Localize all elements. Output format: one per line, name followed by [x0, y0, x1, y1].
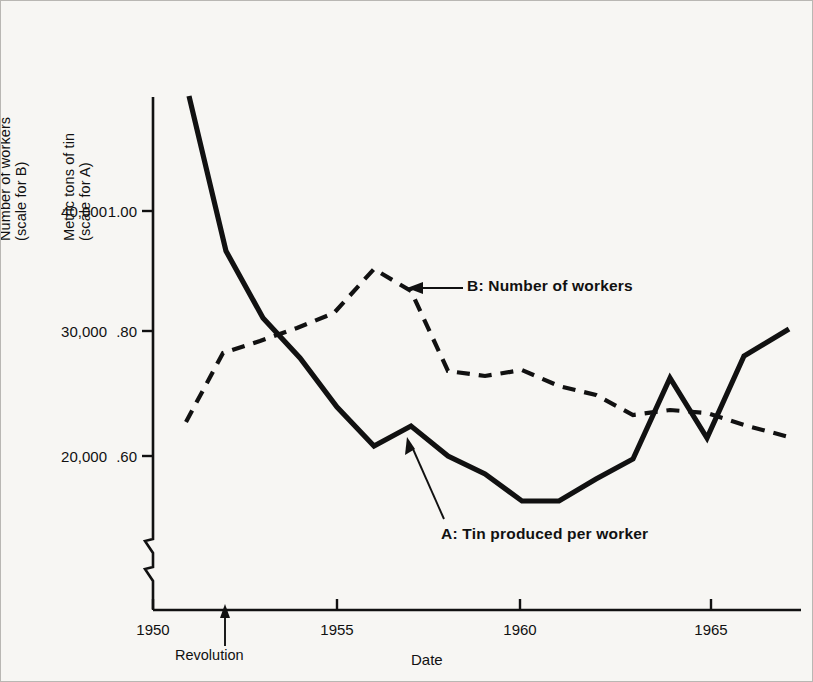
y-axis-break-upper — [145, 528, 153, 561]
series-b-leader-arrow-icon — [407, 282, 463, 294]
chart-page: Number of workers (scale for B) Metric t… — [0, 0, 813, 682]
series-a-line — [189, 96, 789, 501]
series-b-line — [186, 269, 789, 437]
chart-plot-area — [1, 1, 813, 682]
